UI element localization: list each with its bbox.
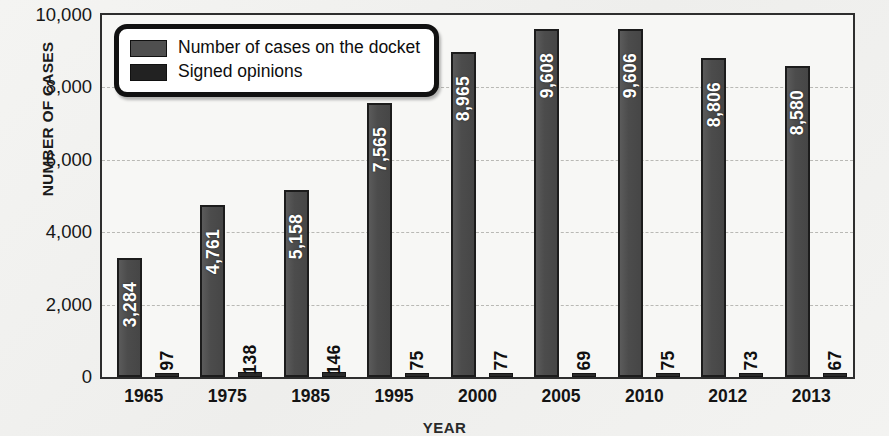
bar-docket[interactable]: 8,580: [785, 66, 810, 377]
x-axis-tick-label: 1965: [124, 386, 163, 407]
bar-group: 8,96577: [436, 15, 519, 377]
bar-docket[interactable]: 9,606: [618, 29, 643, 377]
bar-signed-opinions[interactable]: 97: [155, 373, 179, 377]
x-axis-tick-label: 1985: [291, 386, 330, 407]
legend-item-docket: Number of cases on the docket: [130, 36, 420, 60]
bar-signed-opinions[interactable]: 138: [238, 372, 262, 377]
bar-docket[interactable]: 9,608: [534, 29, 559, 377]
bar-value-label: 3,284: [119, 282, 140, 327]
chart-figure: NUMBER OF CASES 02,0004,0006,0008,00010,…: [0, 0, 889, 436]
bar-value-label: 69: [574, 350, 595, 370]
bar-signed-opinions[interactable]: 67: [823, 373, 847, 377]
y-axis-title: NUMBER OF CASES: [39, 19, 57, 219]
bar-signed-opinions[interactable]: 75: [656, 373, 680, 377]
bar-value-label: 146: [323, 344, 344, 374]
bar-value-label: 8,965: [453, 76, 474, 121]
bar-signed-opinions[interactable]: 146: [322, 372, 346, 377]
bar-value-label: 8,806: [703, 82, 724, 127]
bar-value-label: 9,608: [536, 53, 557, 98]
x-axis-tick-label: 2010: [625, 386, 664, 407]
bar-value-label: 4,761: [202, 229, 223, 274]
x-axis-tick-label: 2000: [458, 386, 497, 407]
bar-docket[interactable]: 8,965: [451, 52, 476, 377]
bar-signed-opinions[interactable]: 75: [405, 373, 429, 377]
legend-label-docket: Number of cases on the docket: [178, 39, 420, 57]
x-axis-title: YEAR: [0, 419, 889, 436]
bar-value-label: 8,580: [787, 90, 808, 135]
plot-area: 3,284974,7611385,1581467,565758,965779,6…: [100, 13, 855, 379]
bar-value-label: 67: [824, 350, 845, 370]
y-axis-tick-label: 4,000: [2, 221, 92, 243]
x-axis-tick-label: 2013: [792, 386, 831, 407]
legend-swatch-docket-icon: [130, 40, 167, 57]
chart-legend: Number of cases on the docket Signed opi…: [114, 24, 439, 97]
bar-value-label: 77: [490, 350, 511, 370]
bar-docket[interactable]: 8,806: [701, 58, 726, 377]
bar-signed-opinions[interactable]: 69: [572, 373, 596, 377]
legend-swatch-opinions-icon: [130, 64, 167, 81]
bar-docket[interactable]: 4,761: [200, 205, 225, 377]
bar-group: 9,60869: [519, 15, 602, 377]
bar-value-label: 5,158: [286, 214, 307, 259]
bar-value-label: 9,606: [620, 53, 641, 98]
x-axis-tick-label: 2005: [541, 386, 580, 407]
x-axis-tick-label: 1975: [208, 386, 247, 407]
bar-group: 9,60675: [603, 15, 686, 377]
bar-value-label: 97: [157, 350, 178, 370]
x-axis-tick-label: 2012: [708, 386, 747, 407]
x-axis-tick-label: 1995: [375, 386, 414, 407]
bar-group: 8,58067: [770, 15, 853, 377]
bar-docket[interactable]: 5,158: [284, 190, 309, 377]
y-axis-tick-label: 0: [2, 366, 92, 388]
bar-value-label: 138: [240, 344, 261, 374]
bar-group: 8,80673: [686, 15, 769, 377]
bar-signed-opinions[interactable]: 73: [739, 373, 763, 377]
bar-value-label: 7,565: [369, 127, 390, 172]
bar-signed-opinions[interactable]: 77: [489, 373, 513, 377]
bar-value-label: 75: [407, 350, 428, 370]
bar-value-label: 73: [741, 350, 762, 370]
legend-item-signed-opinions: Signed opinions: [130, 60, 420, 84]
bar-docket[interactable]: 3,284: [117, 258, 142, 377]
bar-docket[interactable]: 7,565: [367, 103, 392, 377]
legend-label-signed-opinions: Signed opinions: [178, 63, 303, 81]
bar-value-label: 75: [657, 350, 678, 370]
y-axis-tick-label: 2,000: [2, 294, 92, 316]
